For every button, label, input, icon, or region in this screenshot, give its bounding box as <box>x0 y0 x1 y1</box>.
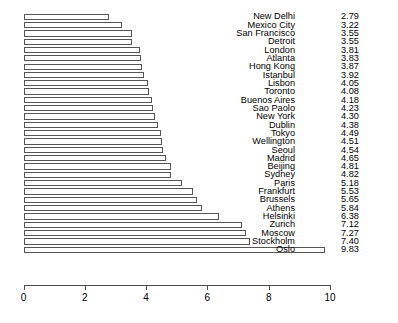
horizontal-bar-chart: New Delhi2.79Mexico City3.22San Francisc… <box>0 0 398 323</box>
bar <box>24 22 123 28</box>
bar <box>24 55 141 61</box>
bar <box>24 197 197 203</box>
bar <box>24 163 171 169</box>
bar-row: Oslo9.83 <box>0 246 398 254</box>
bar <box>24 113 156 119</box>
bar-row: Brussels5.65 <box>0 196 398 204</box>
bar-row: New York4.30 <box>0 113 398 121</box>
bar <box>24 39 133 45</box>
bar <box>24 47 141 53</box>
bar <box>24 222 242 228</box>
bar <box>24 180 183 186</box>
bar-row: Tokyo4.49 <box>0 129 398 137</box>
bar <box>24 14 110 20</box>
bar <box>24 230 247 236</box>
value-label: 9.83 <box>341 244 359 254</box>
bar <box>24 122 158 128</box>
bar <box>24 213 220 219</box>
bar <box>24 147 163 153</box>
bar <box>24 80 148 86</box>
bar <box>24 155 167 161</box>
bar <box>24 105 154 111</box>
bar-row: Stockholm7.40 <box>0 238 398 246</box>
bar-row: New Delhi2.79 <box>0 13 398 21</box>
bar <box>24 205 203 211</box>
bar-row: Sao Paolo4.23 <box>0 105 398 113</box>
bar-row: San Francisco3.55 <box>0 30 398 38</box>
plot-area: New Delhi2.79Mexico City3.22San Francisc… <box>0 0 398 323</box>
bar-row: Madrid4.65 <box>0 154 398 162</box>
bar-row: Athens5.84 <box>0 204 398 212</box>
bar <box>24 138 162 144</box>
bar-row: Buenos Aires4.18 <box>0 96 398 104</box>
bar-row: Moscow7.27 <box>0 229 398 237</box>
bar <box>24 238 251 244</box>
bar-row: Mexico City3.22 <box>0 21 398 29</box>
bar-row: Istanbul3.92 <box>0 71 398 79</box>
bar <box>24 64 143 70</box>
bar <box>24 97 152 103</box>
category-label: Oslo <box>276 244 295 254</box>
bar-row: Sydney4.82 <box>0 171 398 179</box>
bar-row: Atlanta3.83 <box>0 55 398 63</box>
bar-row: Frankfurt5.53 <box>0 188 398 196</box>
bar-row: Dublin4.38 <box>0 121 398 129</box>
bar-row: Hong Kong3.87 <box>0 63 398 71</box>
bar <box>24 30 133 36</box>
bar <box>24 172 172 178</box>
bar <box>24 72 144 78</box>
bar-row: Wellington4.51 <box>0 138 398 146</box>
bar-row: Paris5.18 <box>0 179 398 187</box>
bar-row: Beijing4.81 <box>0 163 398 171</box>
bar-row: Seoul4.54 <box>0 146 398 154</box>
bar-row: London3.81 <box>0 46 398 54</box>
bar-row: Zurich7.12 <box>0 221 398 229</box>
bar <box>24 188 193 194</box>
bar-row: Lisbon4.05 <box>0 80 398 88</box>
bar-row: Toronto4.08 <box>0 88 398 96</box>
bar <box>24 130 162 136</box>
bar-row: Detroit3.55 <box>0 38 398 46</box>
bar-row: Helsinki6.38 <box>0 213 398 221</box>
bar <box>24 88 149 94</box>
